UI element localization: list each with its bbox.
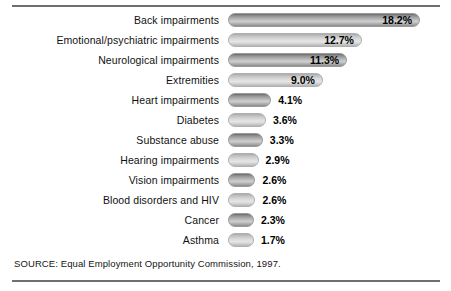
chart-row: Substance abuse3.3% (0, 131, 451, 151)
chart-row: Hearing impairments2.9% (0, 151, 451, 171)
bar (228, 93, 271, 107)
chart-row: Blood disorders and HIV2.6% (0, 191, 451, 211)
bar (228, 193, 255, 207)
bar-area: 2.3% (228, 213, 451, 228)
bar (228, 173, 255, 187)
category-label: Blood disorders and HIV (0, 191, 219, 211)
bar-area: 3.3% (228, 133, 451, 148)
bar (228, 133, 263, 147)
bar-chart-plot: Back impairments18.2%Emotional/psychiatr… (0, 11, 451, 251)
chart-row: Vision impairments2.6% (0, 171, 451, 191)
bar-value-label: 3.3% (270, 133, 294, 147)
chart-row: Neurological impairments11.3% (0, 51, 451, 71)
chart-row: Emotional/psychiatric impairments12.7% (0, 31, 451, 51)
bar-area: 3.6% (228, 113, 451, 128)
chart-row: Heart impairments4.1% (0, 91, 451, 111)
category-label: Neurological impairments (0, 51, 219, 71)
bar-area: 11.3% (228, 53, 451, 68)
category-label: Hearing impairments (0, 151, 219, 171)
bar-area: 1.7% (228, 233, 451, 248)
bar-area: 2.6% (228, 173, 451, 188)
bar-value-label: 2.6% (262, 173, 286, 187)
category-label: Vision impairments (0, 171, 219, 191)
bar-value-label: 18.2% (376, 13, 412, 27)
bar-value-label: 2.9% (266, 153, 290, 167)
chart-figure: Back impairments18.2%Emotional/psychiatr… (0, 0, 451, 291)
bar-value-label: 2.3% (261, 213, 285, 227)
chart-row: Cancer2.3% (0, 211, 451, 231)
bottom-divider (12, 280, 440, 282)
bar (228, 113, 266, 127)
chart-row: Extremities9.0% (0, 71, 451, 91)
top-divider (12, 5, 440, 7)
bar-area: 18.2% (228, 13, 451, 28)
bar-area: 12.7% (228, 33, 451, 48)
category-label: Asthma (0, 231, 219, 251)
bar-area: 2.6% (228, 193, 451, 208)
category-label: Emotional/psychiatric impairments (0, 31, 219, 51)
bar-value-label: 1.7% (261, 233, 285, 247)
source-note: SOURCE: Equal Employment Opportunity Com… (14, 258, 281, 269)
bar-value-label: 9.0% (279, 73, 315, 87)
category-label: Substance abuse (0, 131, 219, 151)
bar (228, 233, 254, 247)
bar-area: 4.1% (228, 93, 451, 108)
chart-row: Back impairments18.2% (0, 11, 451, 31)
category-label: Extremities (0, 71, 219, 91)
category-label: Heart impairments (0, 91, 219, 111)
bar (228, 153, 259, 167)
bar-value-label: 12.7% (318, 33, 354, 47)
bar-value-label: 3.6% (273, 113, 297, 127)
bar-value-label: 2.6% (262, 193, 286, 207)
category-label: Diabetes (0, 111, 219, 131)
category-label: Cancer (0, 211, 219, 231)
category-label: Back impairments (0, 11, 219, 31)
bar-value-label: 4.1% (278, 93, 302, 107)
bar (228, 213, 254, 227)
chart-row: Diabetes3.6% (0, 111, 451, 131)
bar-area: 9.0% (228, 73, 451, 88)
bar-value-label: 11.3% (303, 53, 339, 67)
bar-area: 2.9% (228, 153, 451, 168)
chart-row: Asthma1.7% (0, 231, 451, 251)
